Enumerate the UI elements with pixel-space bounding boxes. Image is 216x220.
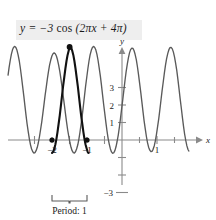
marked-point-maximum — [67, 44, 73, 50]
x-tick-label-minus1: −1 — [82, 145, 92, 155]
cosine-curve — [8, 46, 189, 153]
trig-graph-figure: y = −3 cos (2πx + 4π) — [0, 0, 216, 220]
x-axis-label: x — [205, 135, 210, 145]
y-axis-arrowhead — [119, 47, 126, 54]
y-tick-label-2: 2 — [110, 101, 115, 111]
graph-canvas: −2 −1 1 3 2 1 −3 x y Period: 1 — [0, 0, 216, 220]
period-annotation: Period: 1 — [52, 206, 87, 216]
x-axis-arrowhead — [196, 137, 203, 144]
x-tick-label-minus2: −2 — [47, 145, 57, 155]
y-tick-label-3: 3 — [110, 83, 115, 93]
y-tick-label-minus3: −3 — [103, 188, 113, 198]
y-axis-label: y — [119, 36, 124, 46]
y-tick-label-1: 1 — [110, 118, 115, 128]
marked-point-x-minus2 — [49, 137, 54, 142]
x-tick-label-1: 1 — [155, 145, 160, 155]
marked-point-x-minus1 — [84, 137, 89, 142]
period-bracket — [52, 195, 87, 203]
